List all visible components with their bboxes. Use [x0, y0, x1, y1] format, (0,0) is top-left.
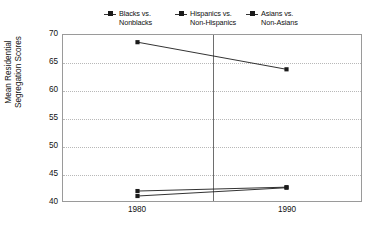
x-axis-tick-1980: 1980	[107, 206, 167, 214]
segregation-scores-chart: Blacks vs. Nonblacks Hispanics vs. Non-H…	[0, 0, 382, 229]
data-point-marker	[284, 67, 288, 71]
data-point-marker	[135, 40, 139, 44]
y-axis-tick-labels: 70656055504540	[28, 34, 58, 202]
legend-item-asians-vs-non-asians: Asians vs. Non-Asians	[246, 9, 317, 28]
legend-item-label: Hispanics vs. Non-Hispanics	[190, 9, 236, 28]
legend-marker-icon	[246, 10, 258, 19]
legend-item-hispanics-vs-non-hispanics: Hispanics vs. Non-Hispanics	[175, 9, 246, 28]
y-axis-tick-label: 65	[32, 58, 58, 66]
chart-legend: Blacks vs. Nonblacks Hispanics vs. Non-H…	[104, 9, 318, 37]
data-point-marker	[135, 194, 139, 198]
y-axis-tick-label: 45	[32, 170, 58, 178]
x-axis-tick-1990: 1990	[257, 206, 317, 214]
y-axis-tick-label: 55	[32, 114, 58, 122]
y-axis-tick-label: 40	[32, 198, 58, 206]
legend-item-label: Asians vs. Non-Asians	[261, 9, 298, 28]
series-0	[135, 40, 288, 71]
y-axis-tick-label: 50	[32, 142, 58, 150]
series-line	[138, 42, 287, 69]
legend-marker-icon	[104, 10, 116, 19]
y-axis-tick-label: 60	[32, 86, 58, 94]
legend-item-blacks-vs-nonblacks: Blacks vs. Nonblacks	[104, 9, 175, 28]
y-axis-tick-label: 70	[32, 30, 58, 38]
series-layer	[63, 35, 361, 201]
legend-marker-icon	[175, 10, 187, 19]
data-point-marker	[284, 186, 288, 190]
data-point-marker	[135, 189, 139, 193]
y-axis-title: Mean Residential Segregation Scores	[4, 12, 24, 132]
legend-item-label: Blacks vs. Nonblacks	[119, 9, 152, 28]
plot-area	[62, 34, 362, 202]
